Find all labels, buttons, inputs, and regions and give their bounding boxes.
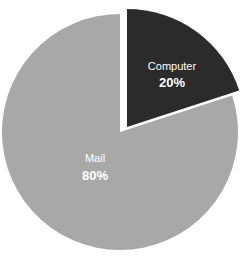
slice-pct-computer: 20%: [159, 75, 185, 90]
slice-label-computer: Computer: [148, 60, 197, 72]
slice-label-mail: Mail: [85, 152, 105, 164]
pie-chart: Computer 20% Mail 80%: [0, 0, 247, 258]
slice-pct-mail: 80%: [82, 168, 108, 183]
